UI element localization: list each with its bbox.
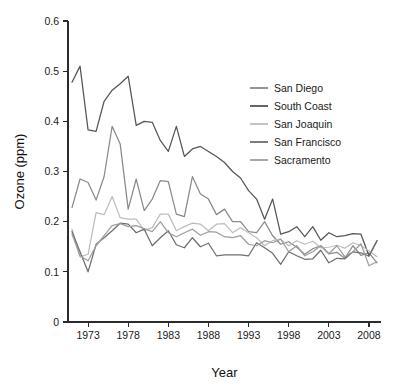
x-tick-label: 1973	[76, 329, 100, 341]
legend-label-san-joaquin: San Joaquin	[274, 118, 333, 130]
y-tick-label: 0.4	[44, 115, 59, 127]
legend-label-sacramento: Sacramento	[274, 154, 331, 166]
x-tick-label: 1993	[237, 329, 261, 341]
legend-label-san-diego: San Diego	[274, 82, 323, 94]
x-tick-label: 2008	[357, 329, 381, 341]
chart-series	[72, 66, 377, 272]
x-tick-label: 1983	[157, 329, 181, 341]
legend-label-south-coast: South Coast	[274, 100, 332, 112]
y-tick-label: 0.3	[44, 165, 59, 177]
y-axis-title: Ozone (ppm)	[12, 134, 27, 210]
ozone-line-chart: 00.10.20.30.40.50.6197319781983198819931…	[0, 0, 399, 391]
x-tick-label: 1988	[197, 329, 221, 341]
chart-axes: 00.10.20.30.40.50.6197319781983198819931…	[44, 15, 381, 341]
legend-label-san-francisco: San Francisco	[274, 136, 341, 148]
y-tick-label: 0.6	[44, 15, 59, 27]
series-line-sacramento	[72, 222, 377, 266]
x-axis-title: Year	[211, 365, 238, 380]
y-tick-label: 0.1	[44, 266, 59, 278]
y-tick-label: 0.2	[44, 215, 59, 227]
series-line-south-coast	[72, 66, 377, 256]
chart-legend: San DiegoSouth CoastSan JoaquinSan Franc…	[250, 82, 341, 166]
x-tick-label: 1998	[277, 329, 301, 341]
series-line-san-joaquin	[72, 197, 377, 257]
x-tick-label: 1978	[117, 329, 141, 341]
y-tick-label: 0.5	[44, 65, 59, 77]
axis-frame	[68, 21, 381, 322]
series-line-san-francisco	[72, 223, 377, 272]
y-tick-label: 0	[53, 316, 59, 328]
x-tick-label: 2003	[317, 329, 341, 341]
ozone-trend-figure: 00.10.20.30.40.50.6197319781983198819931…	[0, 0, 399, 391]
